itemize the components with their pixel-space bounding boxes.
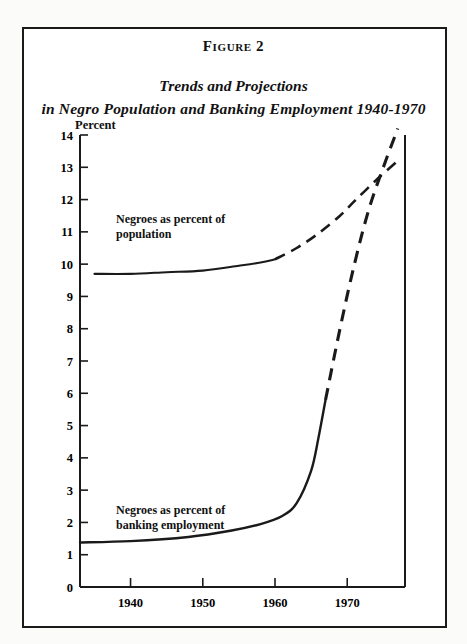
- y-tick-label: 3: [67, 484, 73, 498]
- y-tick-label: 8: [67, 322, 73, 336]
- x-tick-label: 1940: [118, 596, 143, 610]
- x-tick-label: 1960: [263, 596, 288, 610]
- x-axis-ticks: [131, 578, 348, 587]
- y-tick-label: 11: [61, 225, 73, 239]
- annotation-population-line1: Negroes as percent of: [116, 212, 225, 226]
- x-tick-label: 1970: [335, 596, 360, 610]
- y-tick-label: 12: [61, 193, 74, 207]
- y-axis-tick-labels: 01234567891011121314: [61, 129, 74, 595]
- annotation-banking: Negroes as percent of banking employment: [116, 503, 225, 533]
- y-tick-label: 6: [67, 387, 73, 401]
- x-tick-label: 1950: [190, 596, 215, 610]
- chart-plot: 01234567891011121314 1940195019601970: [0, 0, 467, 644]
- y-tick-label: 10: [61, 258, 74, 272]
- y-tick-label: 5: [67, 419, 73, 433]
- y-tick-label: 13: [61, 161, 74, 175]
- y-tick-label: 4: [67, 451, 74, 465]
- y-tick-label: 7: [67, 355, 73, 369]
- y-tick-label: 14: [61, 129, 74, 143]
- annotation-banking-line2: banking employment: [116, 518, 224, 532]
- y-axis-ticks: [80, 135, 88, 587]
- y-tick-label: 1: [67, 548, 73, 562]
- population-series-solid: [94, 259, 275, 274]
- annotation-population: Negroes as percent of population: [116, 212, 225, 242]
- y-tick-label: 2: [67, 516, 73, 530]
- annotation-banking-line1: Negroes as percent of: [116, 503, 225, 517]
- annotation-population-line2: population: [116, 227, 171, 241]
- y-tick-label: 0: [67, 581, 73, 595]
- y-tick-label: 9: [67, 290, 73, 304]
- figure-root: Figure 2 Trends and Projections in Negro…: [0, 0, 467, 644]
- x-axis-tick-labels: 1940195019601970: [118, 596, 360, 610]
